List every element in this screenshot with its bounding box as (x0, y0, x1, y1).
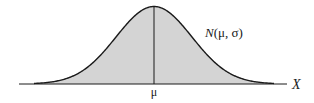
curve-label: N(μ, σ) (204, 25, 243, 40)
mean-label: μ (151, 85, 157, 99)
x-axis-label: X (291, 77, 301, 92)
normal-distribution-diagram: N(μ, σ) X μ (0, 0, 314, 103)
